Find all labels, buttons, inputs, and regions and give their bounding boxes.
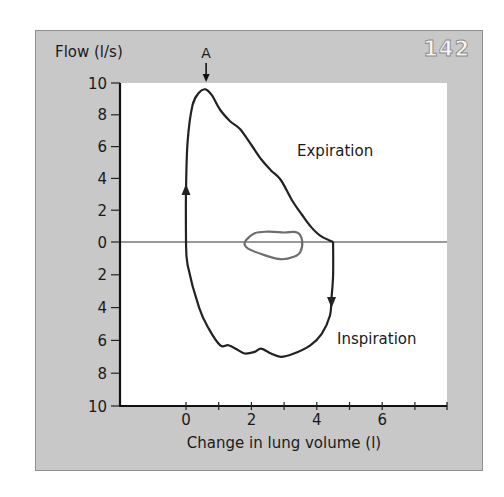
y-tick-label: 8	[97, 365, 107, 383]
y-tick-label: 10	[88, 75, 107, 93]
x-tick-label: 4	[312, 411, 322, 429]
y-axis-label: Flow (l/s)	[55, 43, 123, 61]
y-tick-label: 4	[97, 170, 107, 188]
x-tick-label: 2	[247, 411, 257, 429]
y-tick-label: 6	[97, 332, 107, 350]
peak-flow-annotation: A	[201, 45, 211, 61]
y-tick-label: 8	[97, 106, 107, 124]
flow-volume-figure: 142 Flow (l/s) A 1086420246810 0246 Expi…	[0, 0, 504, 497]
figure-number: 142	[423, 37, 470, 61]
y-tick-label: 2	[97, 266, 107, 284]
inspiration-label: Inspiration	[337, 330, 417, 348]
x-tick-label: 0	[181, 411, 191, 429]
y-tick-label: 10	[88, 398, 107, 416]
expiration-label: Expiration	[297, 142, 373, 160]
y-tick-label: 4	[97, 299, 107, 317]
y-tick-label: 0	[97, 234, 107, 252]
y-tick-label: 2	[97, 202, 107, 220]
x-axis-label: Change in lung volume (l)	[187, 434, 381, 452]
x-tick-label: 6	[377, 411, 387, 429]
y-tick-label: 6	[97, 138, 107, 156]
